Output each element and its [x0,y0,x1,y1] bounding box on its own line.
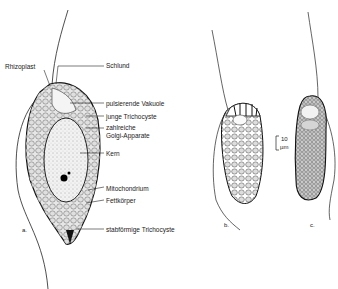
panel-label-a: a. [22,227,27,234]
label-pulsierende-vakuole: pulsierende Vakuole [106,100,164,107]
scale-value: 10 [281,136,288,143]
scale-unit: µm [280,144,288,151]
label-rhizoplast: Rhizoplast [5,63,35,70]
label-golgi-line2: Golgi-Apparate [106,132,150,139]
label-schlund: Schlund [106,62,130,69]
panel-b-cell [212,30,263,230]
label-mitochondrium: Mitochondrium [106,185,149,192]
label-junge-trichocyste: junge Trichocyste [106,113,157,120]
panel-label-c: c. [310,222,315,229]
label-golgi-line1: zahlreiche [106,124,136,131]
label-stabfoermige-trichocyste: stabförmige Trichocyste [106,226,175,233]
panel-label-b: b. [224,222,229,229]
label-fettkoerper: Fettkörper [106,197,136,204]
scale-bar [276,136,279,150]
label-kern: Kern [106,150,120,157]
panel-a-cell [16,10,100,289]
panel-c-cell [295,12,335,220]
